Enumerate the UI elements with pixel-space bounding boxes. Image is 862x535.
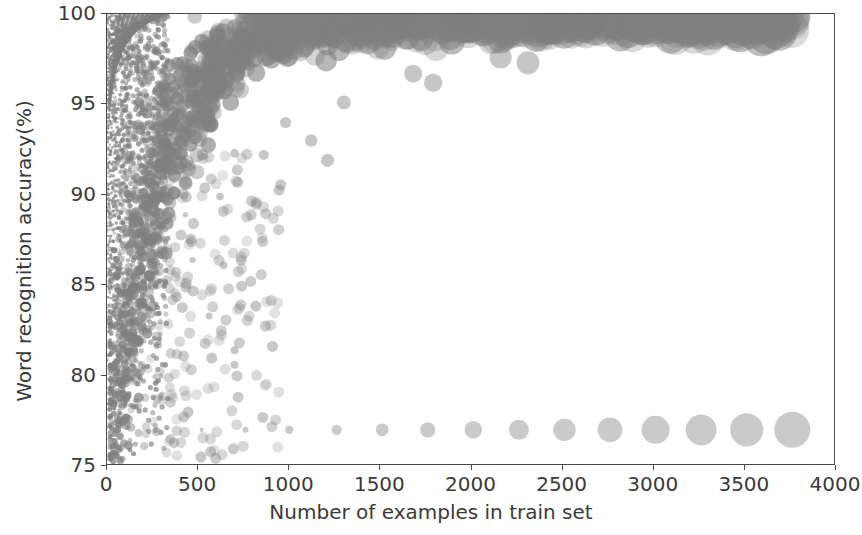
scatter-point	[730, 413, 763, 446]
scatter-point	[109, 338, 112, 341]
scatter-point	[124, 191, 131, 198]
scatter-point	[115, 248, 120, 253]
scatter-point	[123, 393, 130, 400]
scatter-point	[108, 242, 110, 244]
scatter-point	[144, 54, 149, 59]
scatter-point	[149, 246, 154, 251]
scatter-point	[113, 144, 116, 147]
scatter-point	[159, 162, 169, 172]
scatter-point	[375, 24, 399, 48]
scatter-point	[260, 321, 271, 332]
scatter-point	[230, 149, 238, 157]
scatter-point	[255, 223, 266, 234]
scatter-point	[108, 203, 110, 205]
scatter-point	[168, 148, 181, 161]
scatter-point	[138, 261, 143, 266]
scatter-point	[152, 280, 161, 289]
scatter-point	[108, 46, 110, 48]
scatter-point	[165, 140, 170, 145]
scatter-point	[150, 410, 155, 415]
scatter-point	[156, 21, 161, 26]
scatter-point	[107, 358, 109, 360]
scatter-point	[230, 176, 241, 187]
x-tick-mark	[288, 465, 289, 470]
scatter-point	[111, 115, 114, 118]
x-tick-label: 3000	[627, 472, 678, 496]
scatter-point	[219, 235, 230, 246]
scatter-point	[114, 133, 118, 137]
scatter-point	[107, 231, 109, 233]
scatter-point	[184, 328, 195, 339]
scatter-point	[107, 315, 109, 317]
scatter-point	[113, 308, 116, 311]
y-tick-mark	[101, 375, 106, 376]
scatter-point	[216, 330, 227, 341]
scatter-point	[220, 151, 231, 162]
scatter-point	[110, 434, 113, 437]
scatter-point	[120, 390, 124, 394]
scatter-point	[175, 229, 186, 240]
scatter-point	[142, 423, 150, 431]
scatter-point	[111, 210, 114, 213]
scatter-point	[145, 157, 154, 166]
scatter-point	[109, 120, 112, 123]
scatter-point	[107, 158, 109, 160]
scatter-point	[125, 125, 130, 130]
scatter-point	[109, 221, 112, 224]
scatter-point	[118, 272, 124, 278]
scatter-point	[553, 419, 575, 441]
scatter-point	[125, 425, 130, 430]
scatter-point	[331, 425, 341, 435]
scatter-point	[110, 403, 113, 406]
scatter-point	[251, 370, 262, 381]
scatter-point	[509, 420, 529, 440]
scatter-point	[190, 92, 205, 107]
scatter-point	[111, 21, 114, 24]
scatter-point	[142, 430, 150, 438]
scatter-point	[132, 77, 137, 82]
scatter-point	[134, 94, 139, 99]
scatter-point	[128, 120, 133, 125]
scatter-point	[160, 92, 165, 97]
scatter-point	[141, 93, 146, 98]
scatter-point	[140, 293, 145, 298]
scatter-point	[157, 343, 162, 348]
scatter-point	[128, 224, 133, 229]
scatter-point	[117, 266, 121, 270]
scatter-point	[148, 417, 157, 426]
scatter-point	[123, 377, 130, 384]
scatter-point	[220, 364, 231, 375]
scatter-point	[243, 427, 249, 433]
scatter-point	[113, 407, 116, 410]
scatter-point	[156, 378, 161, 383]
scatter-point	[260, 380, 271, 391]
scatter-point	[231, 346, 239, 354]
scatter-point	[774, 412, 810, 448]
scatter-point	[148, 182, 153, 187]
scatter-point	[155, 27, 160, 32]
scatter-point	[117, 320, 123, 326]
scatter-point	[321, 19, 343, 41]
scatter-point	[171, 267, 182, 278]
x-tick-mark	[835, 465, 836, 470]
scatter-point	[164, 425, 169, 430]
scatter-point	[115, 347, 119, 351]
scatter-point	[107, 175, 109, 177]
scatter-point	[133, 164, 141, 172]
scatter-point	[242, 149, 253, 160]
scatter-point	[123, 198, 127, 202]
scatter-point	[177, 302, 188, 313]
scatter-point	[111, 342, 114, 345]
scatter-point	[162, 70, 167, 75]
scatter-point	[165, 236, 170, 241]
scatter-point	[154, 387, 159, 392]
scatter-point	[137, 80, 142, 85]
x-tick-mark	[562, 465, 563, 470]
scatter-point	[337, 96, 351, 110]
scatter-point	[151, 173, 156, 178]
scatter-point	[126, 340, 133, 347]
scatter-point	[128, 406, 135, 413]
scatter-point	[140, 148, 145, 153]
scatter-point	[120, 118, 124, 122]
scatter-point	[109, 217, 112, 220]
